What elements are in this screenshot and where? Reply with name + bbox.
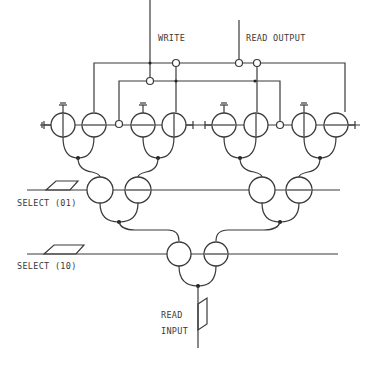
- crossover-ring: [254, 60, 261, 67]
- select-01-label: SELECT (01): [17, 198, 77, 208]
- read-output-label: READ OUTPUT: [246, 33, 306, 43]
- crossover-ring: [173, 60, 180, 67]
- read-input-label-line2: INPUT: [161, 326, 188, 336]
- storage-cell-3: [205, 103, 268, 160]
- crossover-ring: [147, 78, 154, 85]
- write-label: WRITE: [158, 33, 185, 43]
- select-10-gate: [167, 242, 228, 288]
- storage-cell-1: [42, 103, 106, 160]
- read-input-label-line1: READ: [161, 310, 183, 320]
- storage-cell-2: [131, 103, 193, 160]
- select-01-gate-right: [249, 177, 312, 224]
- select-01-gate-left: [87, 177, 151, 224]
- crossover-ring: [236, 60, 243, 67]
- select-10-label: SELECT (10): [17, 261, 77, 271]
- circuit-diagram: SELECT (01) SELECT (10) READ INPUT WRITE…: [0, 0, 369, 366]
- read-input-line: [198, 286, 207, 348]
